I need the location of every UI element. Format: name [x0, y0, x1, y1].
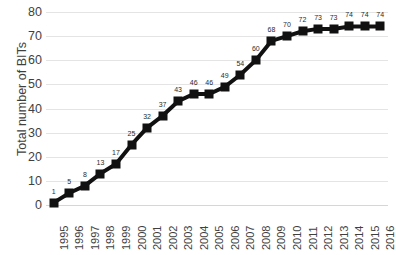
chart-container: Total number of BITs 01020304050607080 1… [0, 0, 396, 255]
data-point-label: 54 [236, 60, 244, 67]
data-point-label: 5 [67, 178, 71, 185]
data-point-label: 72 [299, 16, 307, 23]
data-point-marker [111, 159, 120, 168]
data-point-marker [158, 111, 167, 120]
data-point-marker [65, 188, 74, 197]
data-point-marker [236, 70, 245, 79]
x-axis-tick-label: 2008 [261, 226, 272, 250]
x-axis-tick-label: 2006 [230, 226, 241, 250]
x-axis-tick-label: 1999 [121, 226, 132, 250]
x-axis-tick-label: 2009 [276, 226, 287, 250]
data-point-label: 32 [143, 113, 151, 120]
x-axis-tick-label: 2000 [137, 226, 148, 250]
x-axis-tick-label: 2015 [370, 226, 381, 250]
data-point-label: 46 [190, 79, 198, 86]
data-point-marker [282, 32, 291, 41]
data-point-label: 73 [314, 14, 322, 21]
x-axis-tick-label: 2003 [183, 226, 194, 250]
data-point-marker [96, 169, 105, 178]
data-point-marker [49, 198, 58, 207]
data-point-label: 13 [97, 159, 105, 166]
data-point-label: 43 [174, 86, 182, 93]
data-point-marker [220, 82, 229, 91]
series-line [0, 0, 396, 255]
x-axis-tick-label: 2016 [385, 226, 396, 250]
data-point-marker [376, 22, 385, 31]
data-point-label: 70 [283, 21, 291, 28]
x-axis-tick-label: 2011 [308, 226, 319, 250]
data-point-label: 74 [376, 11, 384, 18]
x-axis-tick-label: 2013 [339, 226, 350, 250]
data-point-label: 73 [330, 14, 338, 21]
data-point-marker [314, 24, 323, 33]
data-point-marker [80, 181, 89, 190]
x-axis-tick-label: 2012 [323, 226, 334, 250]
data-point-marker [174, 97, 183, 106]
data-point-label: 17 [112, 149, 120, 156]
data-point-marker [267, 36, 276, 45]
data-point-label: 46 [205, 79, 213, 86]
data-point-label: 74 [361, 11, 369, 18]
data-point-marker [251, 56, 260, 65]
data-point-marker [189, 90, 198, 99]
data-point-marker [205, 90, 214, 99]
x-axis-tick-label: 2005 [214, 226, 225, 250]
x-axis-tick-label: 1995 [59, 226, 70, 250]
data-point-label: 25 [128, 130, 136, 137]
data-point-marker [360, 22, 369, 31]
x-axis-tick-label: 2014 [354, 226, 365, 250]
data-point-label: 8 [83, 171, 87, 178]
x-axis-tick-label: 1997 [90, 226, 101, 250]
data-point-label: 1 [52, 188, 56, 195]
data-point-marker [143, 123, 152, 132]
data-point-marker [329, 24, 338, 33]
data-point-label: 49 [221, 72, 229, 79]
data-point-marker [298, 27, 307, 36]
x-axis-tick-label: 1996 [74, 226, 85, 250]
x-axis-tick-label: 2007 [245, 226, 256, 250]
x-axis-tick-label: 2001 [152, 226, 163, 250]
data-point-label: 37 [159, 101, 167, 108]
data-point-label: 74 [345, 11, 353, 18]
x-axis-tick-label: 2002 [168, 226, 179, 250]
data-point-marker [127, 140, 136, 149]
x-axis-tick-label: 2004 [199, 226, 210, 250]
data-point-marker [345, 22, 354, 31]
data-point-label: 68 [268, 26, 276, 33]
data-point-label: 60 [252, 45, 260, 52]
x-axis-tick-label: 1998 [105, 226, 116, 250]
x-axis-tick-label: 2010 [292, 226, 303, 250]
